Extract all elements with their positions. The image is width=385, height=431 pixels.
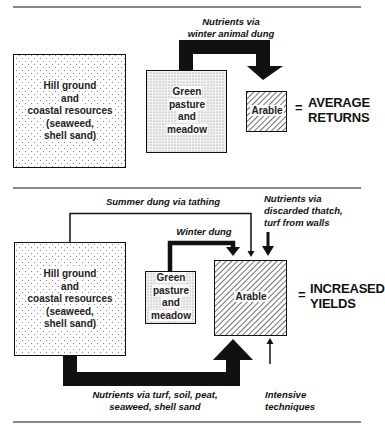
pasture-box-label: Green pasture and meadow bbox=[146, 272, 196, 322]
thatch-arrowhead bbox=[262, 246, 274, 256]
pasture-box-label: Green pasture and meadow bbox=[147, 86, 227, 136]
equals-sign: = bbox=[298, 289, 306, 302]
intensive-techniques-label: Intensive techniques bbox=[265, 389, 315, 413]
summer-dung-label: Summer dung via tathing bbox=[102, 196, 224, 208]
summer-dung-arrowhead bbox=[248, 251, 255, 257]
winter-dung-label: Winter dung bbox=[176, 226, 232, 238]
hill-box-label: Hill ground and coastal resources (seawe… bbox=[14, 80, 126, 143]
winter-animal-dung-label: Nutrients via winter animal dung bbox=[176, 16, 286, 40]
winter-dung-arrowhead bbox=[226, 247, 240, 256]
arable-box-label: Arable bbox=[247, 105, 287, 118]
average-returns-result: AVERAGE RETURNS bbox=[308, 96, 370, 125]
equals-sign: = bbox=[295, 102, 303, 115]
hill-box-label: Hill ground and coastal resources (seawe… bbox=[14, 268, 126, 331]
intensive-arrowhead bbox=[267, 338, 274, 344]
arable-box-label: Arable bbox=[215, 291, 287, 304]
thatch-nutrients-label: Nutrients via discarded thatch, turf fro… bbox=[264, 193, 343, 229]
turf-nutrients-label: Nutrients via turf, soil, peat, seaweed,… bbox=[80, 389, 230, 413]
increased-yields-result: INCREASED YIELDS bbox=[310, 282, 385, 311]
